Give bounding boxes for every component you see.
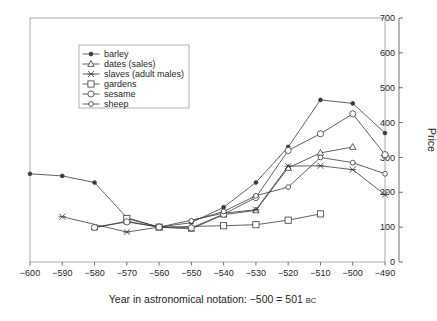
x-tick: −560 (149, 262, 169, 278)
x-tick-label: −500 (343, 268, 363, 278)
y-tick: 100 (380, 222, 403, 232)
x-tick-label: −600 (20, 268, 40, 278)
series-barley (28, 98, 387, 229)
legend-label: slaves (adult males) (104, 69, 184, 79)
x-tick: −600 (20, 262, 40, 278)
y-tick: 600 (380, 48, 403, 58)
series-dates-sales- (91, 144, 356, 232)
x-tick-label: −490 (375, 268, 395, 278)
y-axis-ticks: 0100200300400500600700 (380, 13, 403, 267)
y-tick-label: 700 (380, 13, 395, 23)
x-tick-label: −550 (181, 268, 201, 278)
x-tick: −510 (310, 262, 330, 278)
x-tick: −550 (181, 262, 201, 278)
x-tick-label: −530 (246, 268, 266, 278)
x-axis-title: Year in astronomical notation: −500 = 50… (109, 293, 317, 305)
x-tick: −580 (84, 262, 104, 278)
y-tick: 400 (380, 118, 403, 128)
x-tick-label: −560 (149, 268, 169, 278)
legend-label: gardens (104, 79, 137, 89)
chart-legend: barleydates (sales)slaves (adult males)g… (79, 45, 189, 109)
y-tick-label: 0 (390, 257, 395, 267)
series-group (28, 98, 389, 235)
x-tick: −540 (213, 262, 233, 278)
x-tick-label: −510 (310, 268, 330, 278)
legend-label: sheep (104, 99, 129, 109)
legend-label: sesame (104, 89, 136, 99)
x-tick-label: −580 (84, 268, 104, 278)
x-tick-label: −540 (213, 268, 233, 278)
chart-container: −600−590−580−570−560−550−540−530−520−510… (0, 0, 437, 321)
y-axis-title: Price (426, 128, 437, 152)
x-axis-ticks: −600−590−580−570−560−550−540−530−520−510… (20, 262, 395, 278)
y-tick-label: 100 (380, 222, 395, 232)
x-tick: −530 (246, 262, 266, 278)
legend-label: dates (sales) (104, 59, 156, 69)
x-tick-label: −590 (52, 268, 72, 278)
x-tick-label: −520 (278, 268, 298, 278)
series-sesame (91, 111, 388, 231)
x-tick: −570 (117, 262, 137, 278)
y-tick: 700 (380, 13, 403, 23)
x-tick: −590 (52, 262, 72, 278)
x-tick-label: −570 (117, 268, 137, 278)
y-tick: 500 (380, 83, 403, 93)
y-tick-label: 600 (380, 48, 395, 58)
x-tick: −520 (278, 262, 298, 278)
y-tick: 0 (390, 257, 403, 267)
price-line-chart: −600−590−580−570−560−550−540−530−520−510… (0, 0, 437, 321)
legend-label: barley (104, 49, 129, 59)
x-tick: −500 (343, 262, 363, 278)
y-tick-label: 500 (380, 83, 395, 93)
y-tick-label: 400 (380, 118, 395, 128)
